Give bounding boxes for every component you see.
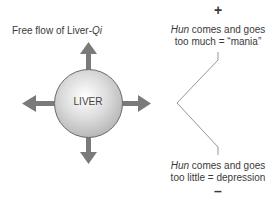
depression-note: Hun comes and goes too little = depressi… — [165, 160, 271, 184]
plus-sign: + — [208, 4, 228, 16]
bracket-line-upper — [177, 52, 218, 103]
minus-sign: – — [208, 185, 228, 197]
arrow-down-icon — [80, 136, 97, 164]
arrow-left-icon — [22, 95, 55, 112]
diagram-title: Free flow of Liver-Qi — [12, 25, 102, 37]
arrow-right-icon — [122, 95, 151, 112]
mania-note: Hun comes and goes too much = “mania” — [165, 24, 271, 48]
bracket-line-lower — [177, 103, 218, 155]
arrow-up-icon — [80, 42, 97, 70]
liver-label: LIVER — [68, 96, 108, 107]
